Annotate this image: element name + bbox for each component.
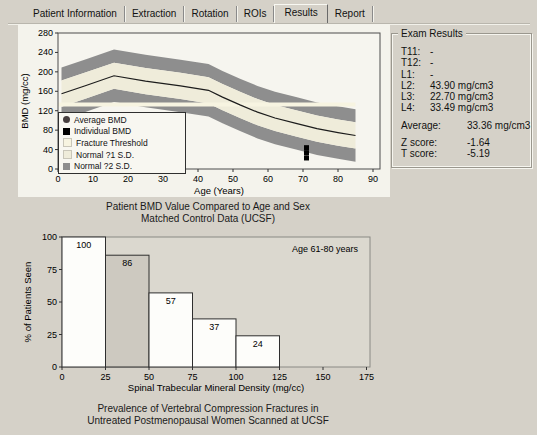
- exam-row-z-score: Z score:-1.64: [392, 137, 531, 148]
- row-value: -: [430, 57, 433, 68]
- bar-value-label: 37: [209, 322, 219, 332]
- chart-legend: Average BMD Individual BMD Fracture Thre…: [58, 112, 186, 174]
- row-label: Average:: [401, 120, 467, 131]
- y-tick-label: 100: [42, 232, 57, 242]
- exam-row-t-score: T score:-5.19: [392, 148, 531, 159]
- legend-label: Individual BMD: [74, 125, 131, 137]
- row-label: L1:: [401, 69, 430, 80]
- x-tick-label: 50: [228, 174, 238, 184]
- x-tick-label: 70: [298, 174, 308, 184]
- row-value: -5.19: [467, 148, 490, 159]
- tab-report[interactable]: Report: [328, 6, 373, 22]
- exam-row-t11: T11:-: [392, 46, 531, 57]
- x-tick-label: 25: [100, 372, 110, 382]
- legend-label: Normal ?2 S.D.: [74, 160, 132, 172]
- bar-value-label: 24: [253, 339, 263, 349]
- y-tick-label: 0: [52, 362, 57, 372]
- bmd-age-chart-panel: 010203040506070809004080120160200240280A…: [18, 24, 390, 197]
- y-tick-label: 80: [43, 125, 53, 135]
- bar: [62, 237, 106, 367]
- row-value: 43.90 mg/cm3: [430, 80, 493, 91]
- results-screen: Patient Information Extraction Rotation …: [0, 0, 537, 435]
- row-value: -: [430, 69, 433, 80]
- exam-row-average: Average:33.36 mg/cm3: [392, 120, 531, 131]
- x-axis-label: Spinal Trabecular Mineral Density (mg/cc…: [128, 382, 304, 393]
- y-tick-label: 280: [38, 28, 53, 38]
- row-value: -1.64: [467, 137, 490, 148]
- tab-results[interactable]: Results: [274, 4, 327, 23]
- tab-extraction[interactable]: Extraction: [125, 6, 184, 22]
- top-chart-caption-line1: Patient BMD Value Compared to Age and Se…: [18, 201, 398, 213]
- x-tick-label: 60: [263, 174, 273, 184]
- individual-bmd-point: [304, 155, 309, 160]
- y-tick-label: 160: [38, 86, 53, 96]
- x-tick-label: 80: [333, 174, 343, 184]
- top-chart-caption-line2: Matched Control Data (UCSF): [18, 213, 398, 225]
- row-label: T11:: [401, 46, 430, 57]
- x-tick-label: 75: [187, 372, 197, 382]
- individual-bmd-point: [304, 145, 309, 150]
- y-tick-label: 50: [47, 297, 57, 307]
- y-tick-label: 40: [43, 145, 53, 155]
- exam-results-title: Exam Results: [398, 28, 466, 39]
- exam-row-l3: L3:22.70 mg/cm3: [392, 91, 531, 102]
- row-value: -: [430, 46, 433, 57]
- legend-item-fracture-threshold: Fracture Threshold: [63, 137, 185, 149]
- x-tick-label: 0: [55, 174, 60, 184]
- legend-item-individual-bmd: Individual BMD: [63, 126, 185, 138]
- x-tick-label: 50: [144, 372, 154, 382]
- legend-label: Fracture Threshold: [76, 137, 148, 149]
- top-chart-caption: Patient BMD Value Compared to Age and Se…: [18, 201, 398, 225]
- bottom-chart-caption-line1: Prevalence of Vertebral Compression Frac…: [18, 403, 398, 415]
- exam-results-body: T11:- T12:- L1:- L2:43.90 mg/cm3 L3:22.7…: [392, 46, 531, 160]
- bar-value-label: 100: [76, 240, 91, 250]
- row-label: T score:: [401, 148, 467, 159]
- bottom-chart-caption: Prevalence of Vertebral Compression Frac…: [18, 403, 398, 427]
- bar-value-label: 86: [122, 258, 132, 268]
- tab-rotation[interactable]: Rotation: [184, 6, 236, 22]
- x-tick-label: 0: [59, 372, 64, 382]
- x-tick-label: 90: [368, 174, 378, 184]
- x-tick-label: 175: [359, 372, 374, 382]
- x-tick-label: 20: [123, 174, 133, 184]
- bottom-chart-caption-line2: Untreated Postmenopausal Women Scanned a…: [18, 415, 398, 427]
- exam-row-t12: T12:-: [392, 57, 531, 68]
- tab-patient-information[interactable]: Patient Information: [26, 6, 125, 22]
- tab-rois[interactable]: ROIs: [237, 6, 275, 22]
- age-range-annotation: Age 61-80 years: [292, 244, 359, 254]
- legend-label: Normal ?1 S.D.: [76, 149, 134, 161]
- row-label: L4:: [401, 102, 430, 113]
- fracture-prevalence-chart: 1008657372402550751001251501750255075100…: [18, 232, 390, 397]
- y-axis-label: % of Patients Seen: [22, 262, 33, 343]
- average-bmd-marker-icon: [63, 116, 70, 123]
- row-label: T12:: [401, 57, 430, 68]
- x-tick-label: 150: [315, 372, 330, 382]
- y-tick-label: 120: [38, 106, 53, 116]
- tab-strip: Patient Information Extraction Rotation …: [26, 6, 373, 22]
- row-label: L2:: [401, 80, 430, 91]
- y-tick-label: 25: [47, 330, 57, 340]
- normal-2sd-swatch-icon: [63, 163, 70, 170]
- row-value: 22.70 mg/cm3: [430, 91, 493, 102]
- row-label: Z score:: [401, 137, 467, 148]
- x-tick-label: 40: [193, 174, 203, 184]
- x-tick-label: 10: [88, 174, 98, 184]
- x-tick-label: 125: [272, 372, 287, 382]
- legend-item-normal-1sd: Normal ?1 S.D.: [63, 149, 185, 161]
- y-axis-label: BMD (mg/cc): [19, 73, 30, 128]
- y-tick-label: 75: [47, 265, 57, 275]
- bar-value-label: 57: [166, 296, 176, 306]
- fracture-prevalence-chart-panel: 1008657372402550751001251501750255075100…: [18, 232, 390, 397]
- exam-row-l2: L2:43.90 mg/cm3: [392, 80, 531, 91]
- exam-results-groupbox: Exam Results T11:- T12:- L1:- L2:43.90 m…: [391, 33, 532, 168]
- fracture-threshold-swatch-icon: [63, 138, 72, 147]
- x-tick-label: 100: [228, 372, 243, 382]
- legend-item-average-bmd: Average BMD: [63, 114, 185, 126]
- legend-item-normal-2sd: Normal ?2 S.D.: [63, 160, 185, 172]
- individual-bmd-point: [304, 150, 309, 155]
- exam-row-l1: L1:-: [392, 69, 531, 80]
- row-label: L3:: [401, 91, 430, 102]
- x-tick-label: 30: [158, 174, 168, 184]
- exam-row-l4: L4:33.49 mg/cm3: [392, 102, 531, 113]
- row-value: 33.36 mg/cm3: [467, 120, 530, 131]
